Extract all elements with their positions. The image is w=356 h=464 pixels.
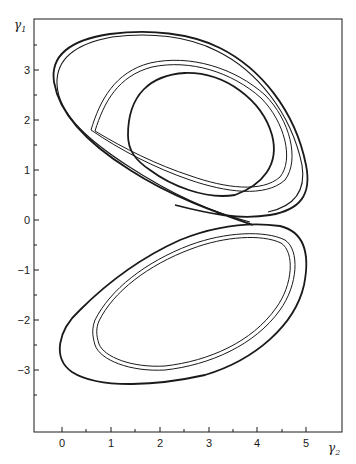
chart-figure: 3 2 1 0 −1 −2 −3 0 1 2 3 4 5 γ1 γ2 xyxy=(0,0,356,464)
y-tick-label: −2 xyxy=(17,314,30,326)
upper-wing-trajectories xyxy=(53,32,307,225)
x-tick-labels: 0 1 2 3 4 5 xyxy=(59,437,309,449)
x-tick-label: 5 xyxy=(303,437,309,449)
y-tick-label: −1 xyxy=(17,264,30,276)
y-axis-title: γ1 xyxy=(14,18,26,34)
svg-text:γ1: γ1 xyxy=(14,18,26,34)
x-tick-label: 3 xyxy=(206,437,212,449)
x-axis-title-sub: 2 xyxy=(334,448,340,457)
x-tick-label: 2 xyxy=(157,437,163,449)
y-tick-label: 0 xyxy=(24,214,30,226)
upper-outer-loop-inner-strand xyxy=(57,35,303,222)
x-tick-label: 0 xyxy=(59,437,65,449)
y-tick-label: −3 xyxy=(17,364,30,376)
y-tick-label: 3 xyxy=(24,64,30,76)
y-tick-labels: 3 2 1 0 −1 −2 −3 xyxy=(17,64,30,376)
upper-inner-loop xyxy=(128,73,274,196)
y-axis-title-sub: 1 xyxy=(21,25,26,34)
lower-outer-loop xyxy=(60,225,306,384)
lower-inner-loop xyxy=(93,234,295,371)
x-tick-label: 4 xyxy=(254,437,260,449)
chart-canvas: 3 2 1 0 −1 −2 −3 0 1 2 3 4 5 γ1 γ2 xyxy=(0,0,356,464)
y-axis-ticks xyxy=(34,45,39,395)
svg-text:γ2: γ2 xyxy=(328,441,340,457)
x-axis-title: γ2 xyxy=(328,441,340,457)
x-tick-label: 1 xyxy=(108,437,114,449)
y-tick-label: 2 xyxy=(24,114,30,126)
lower-wing-trajectories xyxy=(60,225,306,384)
x-axis-ticks xyxy=(62,427,306,432)
upper-middle-loop-strand-2 xyxy=(95,65,287,187)
y-tick-label: 1 xyxy=(24,164,30,176)
plot-frame xyxy=(34,19,342,432)
